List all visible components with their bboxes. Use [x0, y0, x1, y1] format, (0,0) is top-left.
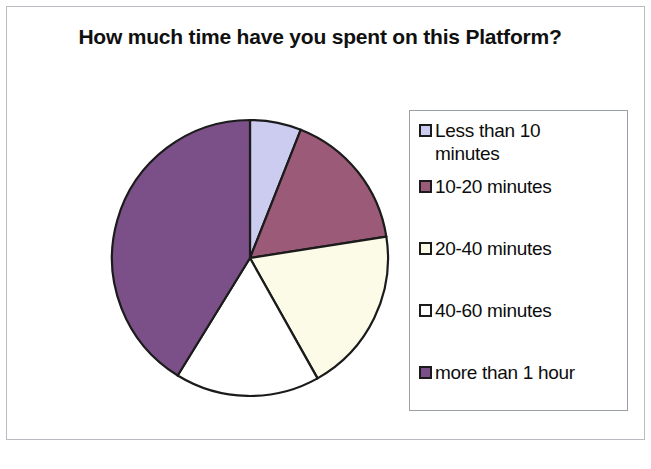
legend-item[interactable]: Less than 10 minutes [410, 119, 627, 165]
legend-item[interactable]: more than 1 hour [410, 361, 627, 384]
legend-item[interactable]: 40-60 minutes [410, 299, 627, 322]
legend-swatch-icon [419, 180, 432, 193]
legend-item-label: 40-60 minutes [435, 299, 552, 322]
legend-swatch-icon [419, 304, 432, 317]
legend-item-label: more than 1 hour [435, 361, 575, 384]
legend-item-label: 10-20 minutes [435, 175, 552, 198]
legend-item-label: Less than 10 minutes [435, 119, 540, 165]
legend-swatch-icon [419, 242, 432, 255]
chart-title: How much time have you spent on this Pla… [40, 24, 600, 50]
pie-chart-figure: How much time have you spent on this Pla… [0, 0, 651, 469]
pie-chart-plot-area [100, 110, 400, 410]
legend-item-label: 20-40 minutes [435, 237, 552, 260]
pie-slice-group [112, 120, 388, 396]
chart-legend: Less than 10 minutes10-20 minutes20-40 m… [409, 110, 628, 411]
legend-item[interactable]: 10-20 minutes [410, 175, 627, 198]
legend-swatch-icon [419, 366, 432, 379]
pie-chart-svg [100, 110, 400, 410]
legend-item[interactable]: 20-40 minutes [410, 237, 627, 260]
legend-swatch-icon [419, 124, 432, 137]
